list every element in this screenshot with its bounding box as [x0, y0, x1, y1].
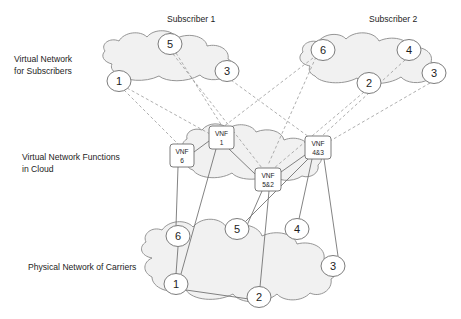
vnf-box-1[interactable]: VNF 1 — [209, 126, 234, 149]
vnf-label-id: 1 — [220, 139, 224, 146]
node-s2-2[interactable]: 2 — [357, 73, 381, 94]
vnf-box-6[interactable]: VNF 6 — [170, 144, 194, 167]
node-label: 2 — [256, 291, 262, 303]
layer-label-subscribers: Virtual Network for Subscribers — [14, 54, 72, 77]
node-label: 3 — [224, 65, 230, 77]
vnf-label-id: 4&3 — [312, 149, 324, 156]
mapping-link — [127, 88, 210, 134]
node-s2-3[interactable]: 3 — [422, 63, 446, 84]
vnf-label-id: 5&2 — [262, 181, 274, 188]
node-label: 4 — [294, 223, 300, 235]
network-link — [324, 159, 338, 256]
network-virtualization-diagram: 5 1 3 6 4 2 — [0, 0, 461, 319]
mapping-link — [124, 90, 180, 146]
node-label: 3 — [431, 67, 437, 79]
node-label: 4 — [406, 44, 412, 56]
network-link — [176, 167, 178, 226]
node-label: 5 — [234, 223, 240, 235]
node-p-3[interactable]: 3 — [321, 256, 345, 277]
node-p-2[interactable]: 2 — [247, 287, 271, 308]
node-p-5[interactable]: 5 — [225, 219, 249, 240]
subscriber-1-title: Subscriber 1 — [167, 14, 215, 24]
vnf-label-title: VNF — [215, 130, 228, 137]
cloud-vnf — [183, 124, 322, 180]
vnf-label-title: VNF — [261, 172, 274, 179]
vnf-box-5-2[interactable]: VNF 5&2 — [255, 168, 281, 191]
mapping-link — [330, 83, 430, 141]
node-label: 3 — [330, 260, 336, 272]
subscriber-2-title: Subscriber 2 — [369, 14, 417, 24]
layer-label-vnf: Virtual Network Functions in Cloud — [22, 152, 120, 175]
node-label: 5 — [167, 38, 173, 50]
node-p-4[interactable]: 4 — [285, 219, 309, 240]
vnf-label-id: 6 — [180, 157, 184, 164]
node-label: 6 — [320, 44, 326, 56]
node-s2-6[interactable]: 6 — [311, 40, 335, 61]
vnf-label-title: VNF — [311, 140, 324, 147]
node-s2-4[interactable]: 4 — [397, 40, 421, 61]
node-p-6[interactable]: 6 — [166, 226, 190, 247]
vnf-label-title: VNF — [175, 148, 188, 155]
node-label: 1 — [173, 278, 179, 290]
node-label: 2 — [366, 77, 372, 89]
node-p-1[interactable]: 1 — [164, 274, 188, 295]
node-s1-3[interactable]: 3 — [215, 61, 239, 82]
node-s1-5[interactable]: 5 — [158, 34, 182, 55]
node-label: 1 — [116, 75, 122, 87]
vnf-box-4-3[interactable]: VNF 4&3 — [305, 136, 331, 159]
node-s1-1[interactable]: 1 — [107, 71, 131, 92]
layer-label-physical: Physical Network of Carriers — [28, 262, 136, 274]
node-label: 6 — [175, 230, 181, 242]
